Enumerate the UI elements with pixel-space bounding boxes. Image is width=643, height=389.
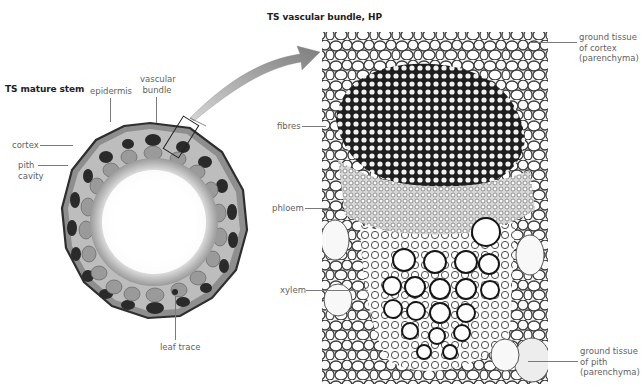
label-ground-cortex-line3: (parenchyma) — [579, 53, 639, 64]
label-ground-cortex-line1: ground tissue — [579, 32, 639, 43]
label-pith-cavity: pith cavity — [18, 160, 44, 181]
left-panel-title: TS mature stem — [5, 84, 84, 94]
label-ground-cortex-line2: of cortex — [579, 43, 639, 54]
label-epidermis: epidermis — [90, 86, 132, 97]
leader-ground-cortex — [530, 42, 577, 43]
leader-xylem — [306, 290, 368, 291]
leader-pith-cavity — [38, 165, 68, 166]
label-ground-pith-line2: of pith — [580, 357, 640, 368]
label-vascular-bundle-line1: vascular — [140, 74, 174, 85]
leader-ground-pith — [528, 361, 578, 362]
right-panel-title: TS vascular bundle, HP — [267, 12, 382, 22]
leader-epidermis — [110, 98, 111, 122]
magnification-arrow — [190, 46, 320, 126]
leaf-trace-mark — [172, 289, 178, 295]
stem-cross-section-micrograph — [62, 116, 247, 318]
label-leaf-trace: leaf trace — [160, 342, 200, 353]
leader-phloem — [305, 208, 329, 209]
label-fibres: fibres — [277, 121, 301, 132]
label-phloem: phloem — [272, 203, 304, 214]
vascular-bundle-micrograph — [321, 32, 550, 384]
figure-graphics — [0, 0, 643, 389]
leader-cortex — [40, 145, 73, 146]
leader-vascular-bundle — [156, 97, 157, 123]
label-vascular-bundle: vascular bundle — [140, 74, 174, 95]
label-ground-tissue-pith: ground tissue of pith (parenchyma) — [580, 346, 640, 378]
label-ground-pith-line3: (parenchyma) — [580, 367, 640, 378]
label-xylem: xylem — [280, 285, 306, 296]
leader-fibres — [302, 126, 326, 127]
label-ground-pith-line1: ground tissue — [580, 346, 640, 357]
leader-leaf-trace — [175, 296, 176, 340]
label-pith-cavity-line2: cavity — [18, 171, 44, 182]
label-cortex: cortex — [12, 140, 39, 151]
label-ground-tissue-cortex: ground tissue of cortex (parenchyma) — [579, 32, 639, 64]
label-vascular-bundle-line2: bundle — [140, 85, 174, 96]
